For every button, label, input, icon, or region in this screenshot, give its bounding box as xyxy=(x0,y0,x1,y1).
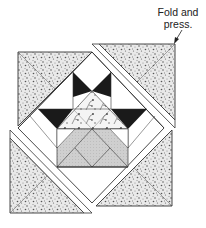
quilt-block-diagram xyxy=(0,0,206,228)
callout-line-1: Fold and xyxy=(150,6,206,18)
fold-and-press-callout: Fold and press. xyxy=(150,6,206,30)
basket xyxy=(57,129,128,167)
callout-arrow xyxy=(174,30,182,44)
callout-line-2: press. xyxy=(150,18,206,30)
